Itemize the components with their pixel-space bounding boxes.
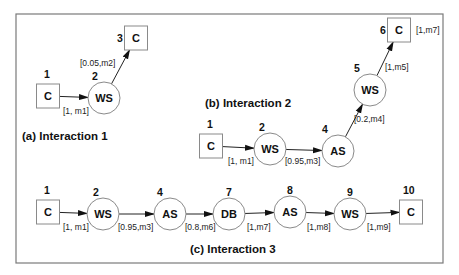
- node-label: AS: [282, 206, 297, 218]
- node-number: 2: [259, 121, 265, 133]
- node-ws-2: WS2: [254, 121, 286, 165]
- node-label: DB: [221, 208, 237, 220]
- node-number: 1: [44, 184, 50, 196]
- node-number: 4: [322, 123, 328, 135]
- edge-arrow: [60, 96, 89, 97]
- node-ws-9: WS9: [334, 186, 366, 230]
- node-label: C: [44, 90, 52, 102]
- node-c-1: C1: [37, 184, 60, 224]
- interaction-title: (c) Interaction 3: [190, 243, 276, 255]
- edge-arrow: [223, 147, 255, 149]
- edge-label: [0.8,m6]: [185, 222, 216, 232]
- edge-arrow: [306, 213, 334, 214]
- node-c-6: C6: [380, 18, 411, 42]
- node-db-7: DB7: [213, 186, 245, 230]
- node-number: 2: [92, 70, 98, 82]
- node-label: WS: [341, 208, 359, 220]
- node-label: WS: [361, 84, 379, 96]
- edge-label: [1,m7]: [247, 222, 271, 232]
- node-label: C: [44, 206, 52, 218]
- node-c-10: C10: [400, 184, 423, 224]
- node-number: 9: [347, 186, 353, 198]
- node-number: 10: [403, 184, 415, 196]
- edge-label: [1,m8]: [307, 222, 331, 232]
- extra-label: [1,m7]: [416, 25, 440, 35]
- node-label: C: [395, 24, 403, 36]
- interaction-2: [1, m1][0.95,m3][0.2,m4][1,m5]C1WS2AS4WS…: [200, 18, 440, 167]
- node-number: 1: [44, 68, 50, 80]
- node-label: C: [407, 206, 415, 218]
- node-c-1: C1: [200, 118, 223, 158]
- node-number: 7: [226, 186, 232, 198]
- node-number: 3: [117, 32, 123, 44]
- edge-arrow: [286, 149, 322, 150]
- node-c-1: C1: [37, 68, 60, 108]
- edge-label: [1,m5]: [385, 62, 409, 72]
- node-label: WS: [94, 208, 112, 220]
- node-number: 1: [207, 118, 213, 130]
- edge-label: [1,m9]: [367, 222, 391, 232]
- node-label: WS: [95, 92, 113, 104]
- node-number: 2: [93, 186, 99, 198]
- node-label: WS: [261, 143, 279, 155]
- edge-label: [1, m1]: [228, 156, 254, 166]
- interaction-1: [1, m1][0.05,m2]C1WS2C3(a) Interaction 1: [22, 26, 148, 142]
- edge-label: [0.95,m3]: [118, 222, 153, 232]
- node-number: 4: [157, 186, 163, 198]
- interaction-title: (b) Interaction 2: [205, 97, 291, 109]
- node-label: AS: [330, 145, 345, 157]
- edge-arrow: [60, 212, 88, 213]
- edge-arrow: [245, 213, 274, 214]
- interaction-diagram: [1, m1][0.05,m2]C1WS2C3(a) Interaction 1…: [0, 0, 459, 275]
- edge-label: [1, m1]: [63, 106, 89, 116]
- node-label: C: [132, 32, 140, 44]
- interaction-3: [1, m1][0.95,m3][0.8,m6][1,m7][1,m8][1,m…: [37, 184, 423, 255]
- node-c-3: C3: [117, 26, 148, 50]
- edge-label: [1, m1]: [63, 222, 89, 232]
- node-as-4: AS4: [154, 186, 186, 230]
- node-ws-5: WS5: [354, 62, 386, 106]
- edge-label: [0.2,m4]: [354, 114, 385, 124]
- node-number: 5: [354, 62, 360, 74]
- node-number: 6: [380, 24, 386, 36]
- edge-label: [0.05,m2]: [80, 58, 115, 68]
- edge-arrow: [366, 212, 400, 213]
- node-label: AS: [162, 208, 177, 220]
- interaction-title: (a) Interaction 1: [22, 130, 108, 142]
- node-label: C: [207, 140, 215, 152]
- node-ws-2: WS2: [87, 186, 119, 230]
- edge-label: [0.95,m3]: [285, 156, 320, 166]
- node-as-8: AS8: [274, 184, 306, 228]
- node-number: 8: [287, 184, 293, 196]
